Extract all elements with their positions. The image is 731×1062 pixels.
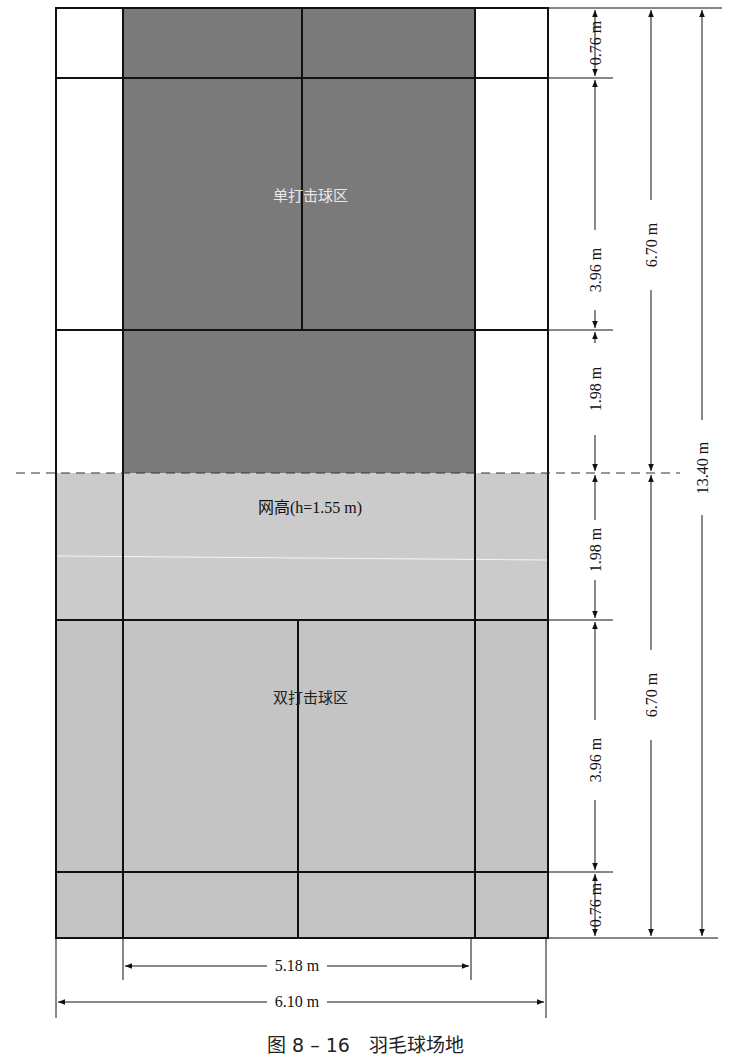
dim-bottom-front: 1.98 m [587, 527, 604, 572]
dim-singles-width: 5.18 m [275, 957, 320, 974]
dim-top-back: 0.76 m [587, 20, 604, 65]
badminton-court-diagram: 单打击球区 网高(h=1.55 m) 双打击球区 [0, 0, 731, 1062]
dim-doubles-width: 6.10 m [275, 993, 320, 1010]
dim-top-front: 1.98 m [587, 366, 604, 411]
net-height-label: 网高(h=1.55 m) [258, 499, 362, 517]
singles-zone-label: 单打击球区 [273, 187, 348, 205]
dim-half-bottom: 6.70 m [643, 672, 660, 717]
dim-total-length: 13.40 m [694, 441, 711, 494]
figure-caption: 图 8 – 16 羽毛球场地 [0, 1030, 731, 1057]
dim-bottom-back: 0.76 m [587, 882, 604, 927]
dim-bottom-service: 3.96 m [587, 737, 604, 782]
dim-top-service: 3.96 m [587, 247, 604, 292]
doubles-zone-label: 双打击球区 [273, 689, 348, 707]
dim-half-top: 6.70 m [643, 222, 660, 267]
